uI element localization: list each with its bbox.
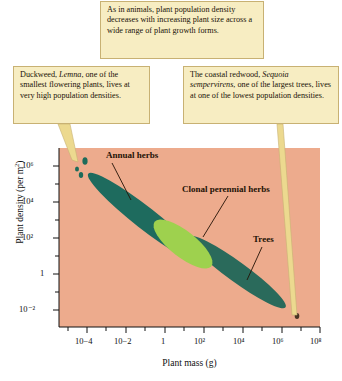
y-axis-title: Plant density (per m2) — [13, 142, 25, 262]
x-tick-label-1e-2: 10−2 — [114, 336, 132, 346]
series-redwood-point — [295, 313, 300, 319]
callout-left-prefix: Duckweed, — [20, 70, 59, 79]
y-tick-label-1e-2: 10⁻² — [19, 304, 35, 314]
x-tick-label-1e8: 10⁸ — [310, 336, 321, 346]
callout-left-italic-taxon: Lemna — [59, 70, 81, 79]
callout-general-statement: As in animals, plant population density … — [100, 1, 264, 59]
callout-right-prefix: The coastal redwood, — [190, 70, 262, 79]
callout-redwood: The coastal redwood, Sequoia semperviren… — [183, 66, 339, 124]
y-tick-label-1: 1 — [40, 268, 44, 278]
label-annual-herbs: Annual herbs — [106, 150, 158, 160]
series-duckweed-points — [75, 157, 88, 178]
x-tick-label-1: 1 — [161, 336, 165, 346]
label-trees: Trees — [253, 234, 274, 244]
x-tick-label-1e6: 10⁶ — [272, 336, 283, 346]
callout-duckweed: Duckweed, Lemna, one of the smallest flo… — [13, 66, 150, 124]
x-major-ticks — [87, 327, 320, 333]
callout-top-text: As in animals, plant population density … — [107, 5, 252, 35]
x-minor-ticks — [68, 327, 301, 331]
x-tick-label-1e2: 10² — [194, 336, 205, 346]
x-axis-title: Plant mass (g) — [59, 358, 320, 368]
label-clonal-perennial-herbs: Clonal perennial herbs — [182, 184, 270, 194]
x-tick-label-1e4: 10⁴ — [233, 336, 244, 346]
plot-canvas — [59, 148, 320, 327]
plot-area — [59, 148, 320, 327]
x-tick-label-1e-4: 10−4 — [75, 336, 93, 346]
